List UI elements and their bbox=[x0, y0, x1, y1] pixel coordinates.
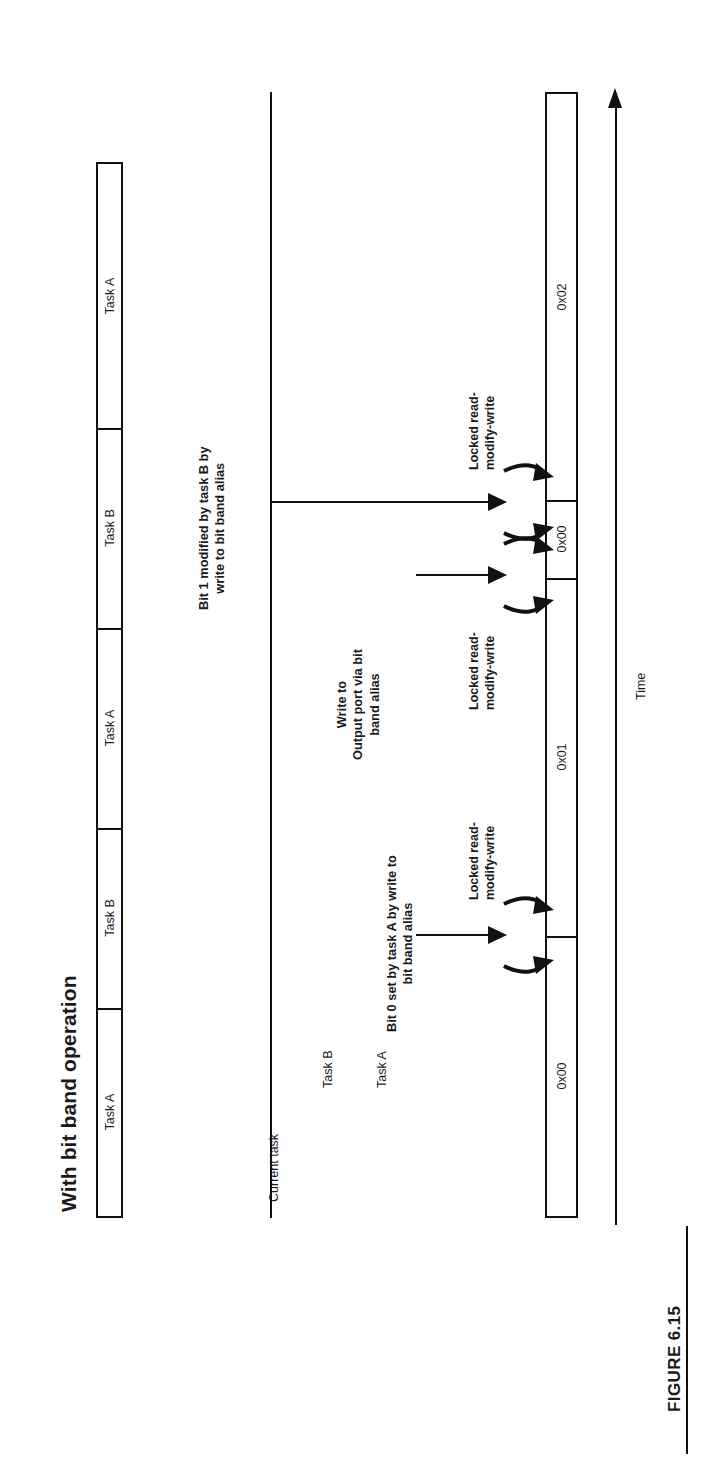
rmw-marker-label: Locked read- modify-write bbox=[466, 632, 498, 710]
task-segment-label: Task A bbox=[103, 1094, 117, 1131]
rmw-label-line: modify-write bbox=[482, 392, 498, 470]
port-value-label: 0x01 bbox=[555, 743, 569, 770]
task-segment-label: Task A bbox=[103, 710, 117, 747]
row-label-current-task: Current task bbox=[266, 1134, 282, 1202]
current-task-lane: Task A Task B Task A Task B Task A bbox=[96, 162, 123, 1218]
rmw-marker-label: Locked read- modify-write bbox=[466, 392, 498, 470]
time-axis-line bbox=[615, 95, 617, 1225]
figure-caption: FIGURE 6.15 bbox=[664, 1306, 686, 1412]
port-value-label: 0x02 bbox=[555, 283, 569, 310]
task-switch-rail bbox=[270, 92, 272, 1218]
rmw-label-line: modify-write bbox=[482, 632, 498, 710]
rmw-label-line: modify-write bbox=[482, 822, 498, 900]
port-value-segment: 0x02 bbox=[547, 94, 576, 500]
locked-read-modify-write-swirl bbox=[498, 534, 572, 616]
task-segment-label: Task B bbox=[103, 509, 117, 547]
output-port-value-lane: 0x02 0x00 0x01 0x00 bbox=[545, 92, 578, 1218]
annotation-bit1-modified: Bit 1 modified by task B by write to bit… bbox=[196, 446, 229, 610]
segment-divider bbox=[98, 828, 121, 830]
figure-title: With bit band operation bbox=[56, 975, 83, 1212]
row-label-task-b: Task B bbox=[320, 1050, 336, 1088]
locked-read-modify-write-swirl bbox=[498, 894, 572, 976]
port-value-segment: 0x01 bbox=[547, 578, 576, 936]
task-segment: Task B bbox=[98, 828, 121, 1008]
locked-read-modify-write-swirl bbox=[498, 461, 572, 543]
annotation-bit0-set: Bit 0 set by task A by write to bit band… bbox=[384, 855, 417, 1032]
task-segment-label: Task A bbox=[103, 278, 117, 315]
task-segment: Task A bbox=[98, 164, 121, 428]
annotation-line: Bit 1 modified by task B by bbox=[196, 446, 212, 610]
segment-divider bbox=[98, 628, 121, 630]
annotation-write-output-port: Write to Output port via bit band alias bbox=[334, 649, 383, 760]
rmw-label-line: Locked read- bbox=[466, 822, 482, 900]
annotation-line: write to bit band alias bbox=[212, 446, 228, 610]
caption-rule bbox=[686, 1226, 688, 1454]
annotation-line: band alias bbox=[367, 649, 383, 760]
segment-divider bbox=[98, 1008, 121, 1010]
task-segment-label: Task B bbox=[103, 899, 117, 937]
annotation-line: Write to bbox=[334, 649, 350, 760]
task-segment: Task A bbox=[98, 1008, 121, 1216]
time-axis-label: Time bbox=[633, 673, 649, 700]
segment-divider bbox=[98, 428, 121, 430]
port-value-label: 0x00 bbox=[555, 1062, 569, 1089]
annotation-line: Output port via bit bbox=[350, 649, 366, 760]
port-value-segment: 0x00 bbox=[547, 936, 576, 1216]
annotation-line: bit band alias bbox=[400, 855, 416, 1032]
rmw-marker-label: Locked read- modify-write bbox=[466, 822, 498, 900]
rmw-label-line: Locked read- bbox=[466, 632, 482, 710]
task-segment: Task B bbox=[98, 428, 121, 628]
row-label-task-a: Task A bbox=[374, 1051, 390, 1088]
event-arrow-shaft bbox=[416, 934, 490, 936]
task-segment: Task A bbox=[98, 628, 121, 828]
event-arrow-shaft bbox=[416, 574, 490, 576]
annotation-line: Bit 0 set by task A by write to bbox=[384, 855, 400, 1032]
time-axis-arrowhead-icon bbox=[608, 88, 622, 108]
event-arrow-shaft bbox=[271, 501, 490, 503]
rmw-label-line: Locked read- bbox=[466, 392, 482, 470]
